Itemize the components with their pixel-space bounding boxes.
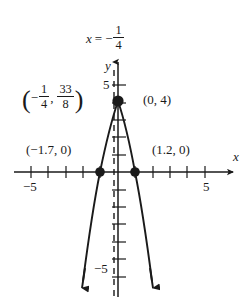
vertex-x-numerator: 1 [39,83,49,97]
y-tick-label-negative-5: −5 [94,262,108,275]
y-intercept-label: (0, 4) [143,93,171,106]
x-axis-label: x [233,150,239,163]
x-tick-label-negative-5: −5 [23,180,37,193]
vertex-point-label: (−14,338) [22,83,83,111]
vertex-comma: , [50,90,53,105]
vertex-y-numerator: 33 [57,83,73,97]
vertex-coordinates: −14,338 [31,83,75,111]
symmetry-eq-denominator: 4 [113,38,123,51]
vertex-x-denominator: 4 [39,97,49,110]
x-intercept-left-label: (−1.7, 0) [26,143,71,156]
symmetry-eq-variable: x [86,31,92,46]
vertex-close-paren: ) [75,89,84,111]
point-vertex [112,95,123,106]
vertex-x-sign: − [31,90,38,105]
vertex-y-fraction: 338 [57,83,73,111]
point-x-intercept-left [95,167,105,177]
vertex-y-denominator: 8 [57,97,73,110]
y-axis-label: y [105,59,111,72]
symmetry-eq-fraction: 14 [113,24,123,52]
symmetry-eq-sign: − [105,31,112,46]
axis-of-symmetry-equation: x=−14 [86,24,125,52]
vertex-x-fraction: 14 [39,83,49,111]
x-axis [14,166,233,178]
y-tick-label-5: 5 [103,78,110,91]
x-intercept-right-label: (1.2, 0) [152,143,190,156]
x-tick-label-5: 5 [203,180,210,193]
symmetry-eq-equals: = [95,31,102,46]
parabola-figure: x=−14 y x 5 −5 −5 5 (−14,338) (0, 4) (−1… [0,0,252,308]
vertex-open-paren: ( [22,89,31,111]
symmetry-eq-numerator: 1 [113,24,123,38]
point-x-intercept-right [130,167,140,177]
